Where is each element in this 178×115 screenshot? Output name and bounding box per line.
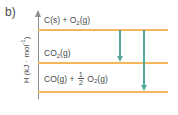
energy-level-label-middle: CO2(g) (44, 49, 70, 58)
species-text: C(s) + O (44, 15, 76, 25)
panel-label: b) (5, 6, 16, 18)
energy-level-line-top (38, 29, 168, 31)
fraction-numerator: 1 (78, 71, 84, 79)
enthalpy-arrow-top-to-bottom (143, 30, 145, 85)
arrow-head-icon-top-to-middle (117, 56, 123, 62)
energy-level-label-top: C(s) + O2(g) (44, 16, 90, 25)
y-axis-units-open: (kJ · mol (22, 45, 31, 76)
one-half-fraction: 12 (78, 71, 84, 88)
species-text: CO(g) + (44, 74, 77, 84)
species-text: CO (44, 48, 57, 58)
y-axis-units-close: ) (22, 37, 31, 40)
y-axis-variable: H (22, 78, 31, 84)
energy-level-label-bottom: CO(g) + 12 O2(g) (44, 71, 108, 88)
energy-level-line-bottom (38, 91, 168, 93)
state-text: (g) (60, 48, 70, 58)
species-text-2: O (85, 74, 94, 84)
subscript: 2 (76, 20, 79, 26)
energy-level-line-middle (38, 62, 168, 64)
state-text: (g) (97, 74, 107, 84)
state-text: (g) (80, 15, 90, 25)
fraction-denominator: 2 (78, 78, 84, 87)
y-axis-label: H (kJ · mol-1) (23, 25, 31, 95)
enthalpy-level-diagram: b) H (kJ · mol-1) C(s) + O2(g) CO2(g) CO… (0, 0, 178, 115)
enthalpy-arrow-top-to-middle (119, 30, 121, 56)
subscript: 2 (57, 53, 60, 59)
y-axis-units-exponent: -1 (20, 39, 26, 44)
subscript: 2 (94, 78, 97, 84)
arrow-head-icon-top-to-bottom (141, 85, 147, 91)
